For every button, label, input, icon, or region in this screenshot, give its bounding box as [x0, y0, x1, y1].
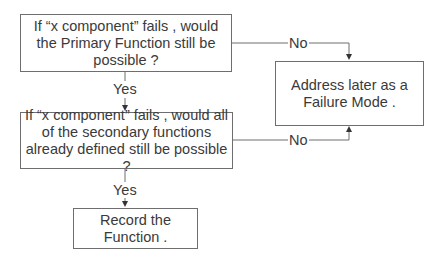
edge-label-q2-no: No — [288, 132, 309, 148]
edge-label-q1-no: No — [288, 35, 309, 51]
record-function-text: Record the Function . — [92, 212, 179, 246]
edge-label-q1-yes: Yes — [112, 81, 138, 97]
failure-mode-text: Address later as a Failure Mode . — [290, 77, 409, 111]
failure-mode-box: Address later as a Failure Mode . — [275, 61, 424, 126]
question-primary-function-text: If “x component” fails , would the Prima… — [25, 18, 227, 69]
edge-label-q2-yes: Yes — [112, 182, 138, 198]
question-secondary-functions-text: If “x component” fails , would all of th… — [23, 107, 230, 175]
question-secondary-functions-box: If “x component” fails , would all of th… — [20, 112, 233, 169]
record-function-box: Record the Function . — [73, 208, 198, 249]
question-primary-function-box: If “x component” fails , would the Prima… — [20, 14, 232, 72]
